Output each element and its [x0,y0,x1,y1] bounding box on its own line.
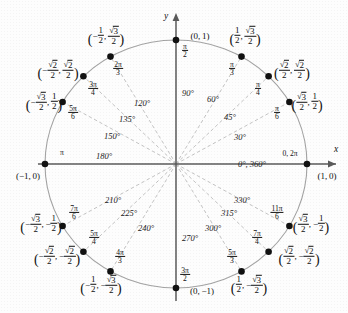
degree-label-30: 30° [234,133,246,142]
coordinate-label-120: (−12, √32) [88,27,124,47]
coordinate-label-210: (−√32, −12) [20,215,61,235]
coordinate-label-330: (√32, −12) [293,215,329,235]
degree-label-240: 240° [138,224,154,233]
coordinate-label-270: (0, −1) [190,287,214,296]
degree-label-210: 210° [105,196,121,205]
degree-label-120: 120° [134,99,150,108]
point-315 [265,248,272,255]
point-135 [80,73,87,80]
coordinate-label-240: (−12, −√32) [80,276,121,296]
coordinate-label-90: (0, 1) [190,32,209,41]
radian-label-120: 2π3 [113,62,123,78]
radian-label-300: 5π3 [227,250,237,266]
unit-circle-figure: x y 0°, 360° 30° 45° 60° 90° 120° 135° 1… [0,0,348,313]
degree-label-270: 270° [182,234,198,243]
coordinate-label-315: (√22, −√22) [278,247,319,267]
radian-label-225: 5π4 [89,231,99,247]
y-axis-label: y [164,12,168,22]
x-axis-label: x [334,145,338,155]
radian-label-180: π [60,149,64,157]
point-0 [304,161,311,168]
radian-label-210: 7π6 [69,206,79,222]
degree-label-135: 135° [119,115,135,124]
radian-label-60: π3 [229,62,235,78]
radian-label-0: 0, 2π [282,150,297,158]
point-60 [238,53,245,60]
radian-label-150: 5π6 [68,106,78,122]
degree-label-300: 300° [205,224,221,233]
y-axis-arrow [173,13,180,21]
coordinate-label-45: (√22, √22) [274,61,310,81]
coordinate-label-180: (−1, 0) [16,172,40,181]
degree-label-315: 315° [221,209,237,218]
degree-label-0-360: 0°, 360° [238,160,266,169]
degree-label-180: 180° [96,152,112,161]
degree-label-90: 90° [182,89,194,98]
point-180 [42,161,49,168]
radian-label-330: 11π6 [270,206,283,222]
degree-label-45: 45° [224,113,236,122]
point-90 [173,37,180,44]
degree-label-330: 330° [234,196,250,205]
coordinate-label-30: (√32, 12) [291,93,322,113]
point-330 [286,223,293,230]
coordinate-label-225: (−√22, −√22) [34,247,80,267]
coordinate-label-60: (12, √32) [229,27,260,47]
point-225 [80,248,87,255]
point-45 [265,73,272,80]
radian-label-315: 7π4 [252,231,262,247]
radian-label-45: π4 [255,82,261,98]
coordinate-label-300: (12, −√32) [231,276,267,296]
degree-label-225: 225° [121,209,137,218]
coordinate-label-150: (−√32, 12) [26,93,62,113]
coordinate-label-0: (1, 0) [317,172,336,181]
radian-label-135: 3π4 [88,82,98,98]
radian-label-270: 3π2 [180,268,190,284]
radian-label-90: π2 [182,44,188,60]
coordinate-label-135: (−√22, √22) [37,61,78,81]
radian-label-240: 4π3 [115,250,125,266]
x-axis-arrow [328,161,336,168]
point-270 [173,285,180,292]
degree-label-60: 60° [207,95,219,104]
point-120 [107,53,114,60]
degree-label-150: 150° [104,132,120,141]
radian-label-30: π6 [274,106,280,122]
